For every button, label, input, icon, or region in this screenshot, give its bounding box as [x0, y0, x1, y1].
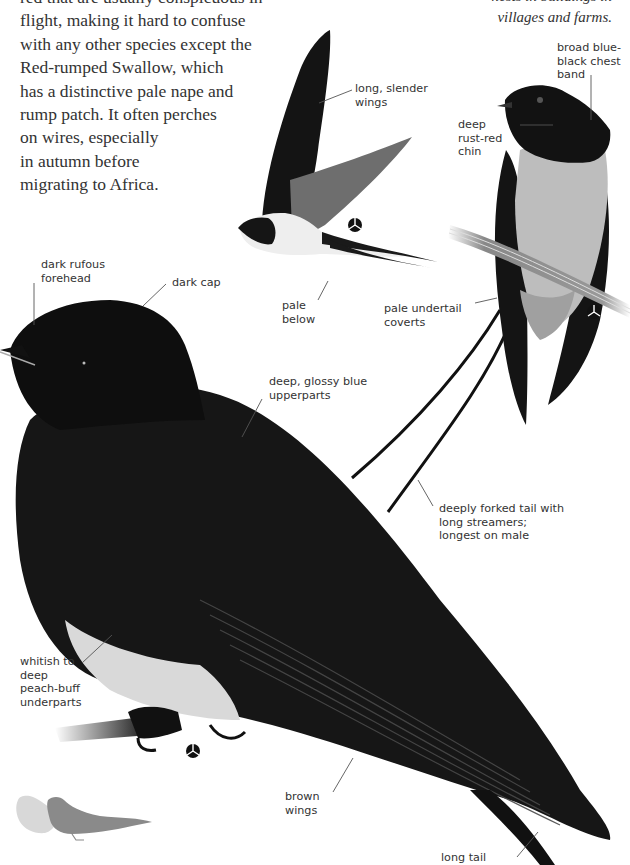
- label-deeply-forked-tail: deeply forked tail with long streamers; …: [439, 502, 564, 543]
- description-line: flight, making it hard to confuse: [20, 9, 340, 32]
- label-rust-red-chin: deep rust-red chin: [458, 118, 502, 159]
- habitat-caption: nests in buildings in villages and farms…: [492, 0, 612, 28]
- description-line: in autumn before: [20, 150, 340, 173]
- label-glossy-blue-upperparts: deep, glossy blue upperparts: [269, 375, 367, 402]
- description-line: red that are usually conspicuous in: [20, 0, 340, 9]
- description-line: has a distinctive pale nape and: [20, 80, 340, 103]
- description-line: rump patch. It often perches: [20, 103, 340, 126]
- caption-line: nests in buildings in: [492, 0, 612, 7]
- label-brown-wings: brown wings: [285, 790, 320, 817]
- label-pale-below: pale below: [282, 299, 315, 326]
- field-guide-page: red that are usually conspicuous in flig…: [0, 0, 630, 865]
- label-pale-undertail-coverts: pale undertail coverts: [384, 302, 462, 329]
- description-line: with any other species except the: [20, 33, 340, 56]
- size-comparison-silhouette-icon: [16, 796, 152, 840]
- description-line: on wires, especially: [20, 126, 340, 149]
- label-long-tail: long tail: [441, 851, 486, 865]
- species-description: red that are usually conspicuous in flig…: [20, 0, 340, 197]
- label-dark-rufous-forehead: dark rufous forehead: [41, 258, 105, 285]
- label-chest-band: broad blue- black chest band: [557, 41, 621, 82]
- male-symbol-icon: [587, 305, 601, 319]
- label-dark-cap: dark cap: [172, 276, 221, 290]
- caption-line: villages and farms.: [492, 7, 612, 28]
- description-line: Red-rumped Swallow, which: [20, 56, 340, 79]
- label-long-slender-wings: long, slender wings: [355, 82, 428, 109]
- male-symbol-icon: [186, 744, 200, 758]
- male-symbol-icon: [348, 218, 362, 232]
- label-peach-buff-underparts: whitish to deep peach-buff underparts: [20, 655, 82, 709]
- description-line: migrating to Africa.: [20, 173, 340, 196]
